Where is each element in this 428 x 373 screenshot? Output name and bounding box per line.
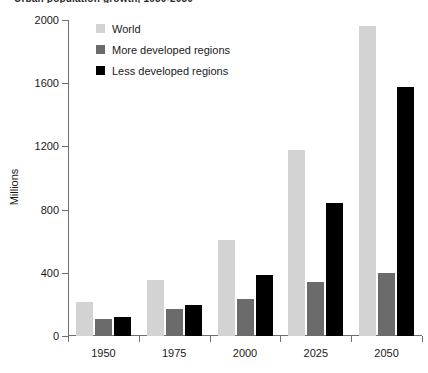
x-tick-mark [422, 336, 423, 342]
y-tick-label: 2000 [35, 14, 59, 26]
y-tick-mark [62, 273, 68, 274]
x-tick-mark [68, 336, 69, 342]
bar-more-developed-2000 [237, 299, 254, 336]
y-axis-line [68, 20, 69, 336]
bar-more-developed-1975 [166, 309, 183, 336]
bar-world-1975 [147, 280, 164, 336]
y-tick-label: 1200 [35, 140, 59, 152]
y-tick-label: 800 [41, 204, 59, 216]
y-axis-title: Millions [8, 168, 20, 205]
x-tick-label: 1950 [91, 347, 115, 359]
x-tick-mark [351, 336, 352, 342]
y-tick-mark [62, 210, 68, 211]
chart-caption-clipped: Urban population growth, 1950-2050 [14, 0, 193, 3]
y-tick-label: 400 [41, 267, 59, 279]
x-tick-label: 1975 [162, 347, 186, 359]
chart-container: Urban population growth, 1950-2050 Milli… [0, 0, 428, 373]
x-tick-mark [280, 336, 281, 342]
y-tick-mark [62, 20, 68, 21]
x-tick-label: 2025 [304, 347, 328, 359]
bar-world-2025 [288, 150, 305, 336]
bar-world-2000 [218, 240, 235, 336]
plot-area: 0400800120016002000 19501975200020252050 [68, 20, 422, 336]
x-tick-label: 2000 [233, 347, 257, 359]
y-tick-mark [62, 83, 68, 84]
bar-less-developed-2025 [326, 203, 343, 337]
bar-world-1950 [76, 302, 93, 336]
y-tick-label: 0 [53, 330, 59, 342]
y-tick-mark [62, 146, 68, 147]
x-tick-mark [139, 336, 140, 342]
bar-more-developed-2050 [378, 273, 395, 336]
x-tick-mark [210, 336, 211, 342]
bar-less-developed-2050 [397, 87, 414, 336]
bar-less-developed-2000 [256, 275, 273, 336]
bar-more-developed-2025 [307, 282, 324, 337]
bar-world-2050 [359, 26, 376, 336]
bar-more-developed-1950 [95, 319, 112, 336]
y-tick-label: 1600 [35, 77, 59, 89]
bar-less-developed-1975 [185, 305, 202, 336]
x-tick-label: 2050 [374, 347, 398, 359]
bar-less-developed-1950 [114, 317, 131, 336]
